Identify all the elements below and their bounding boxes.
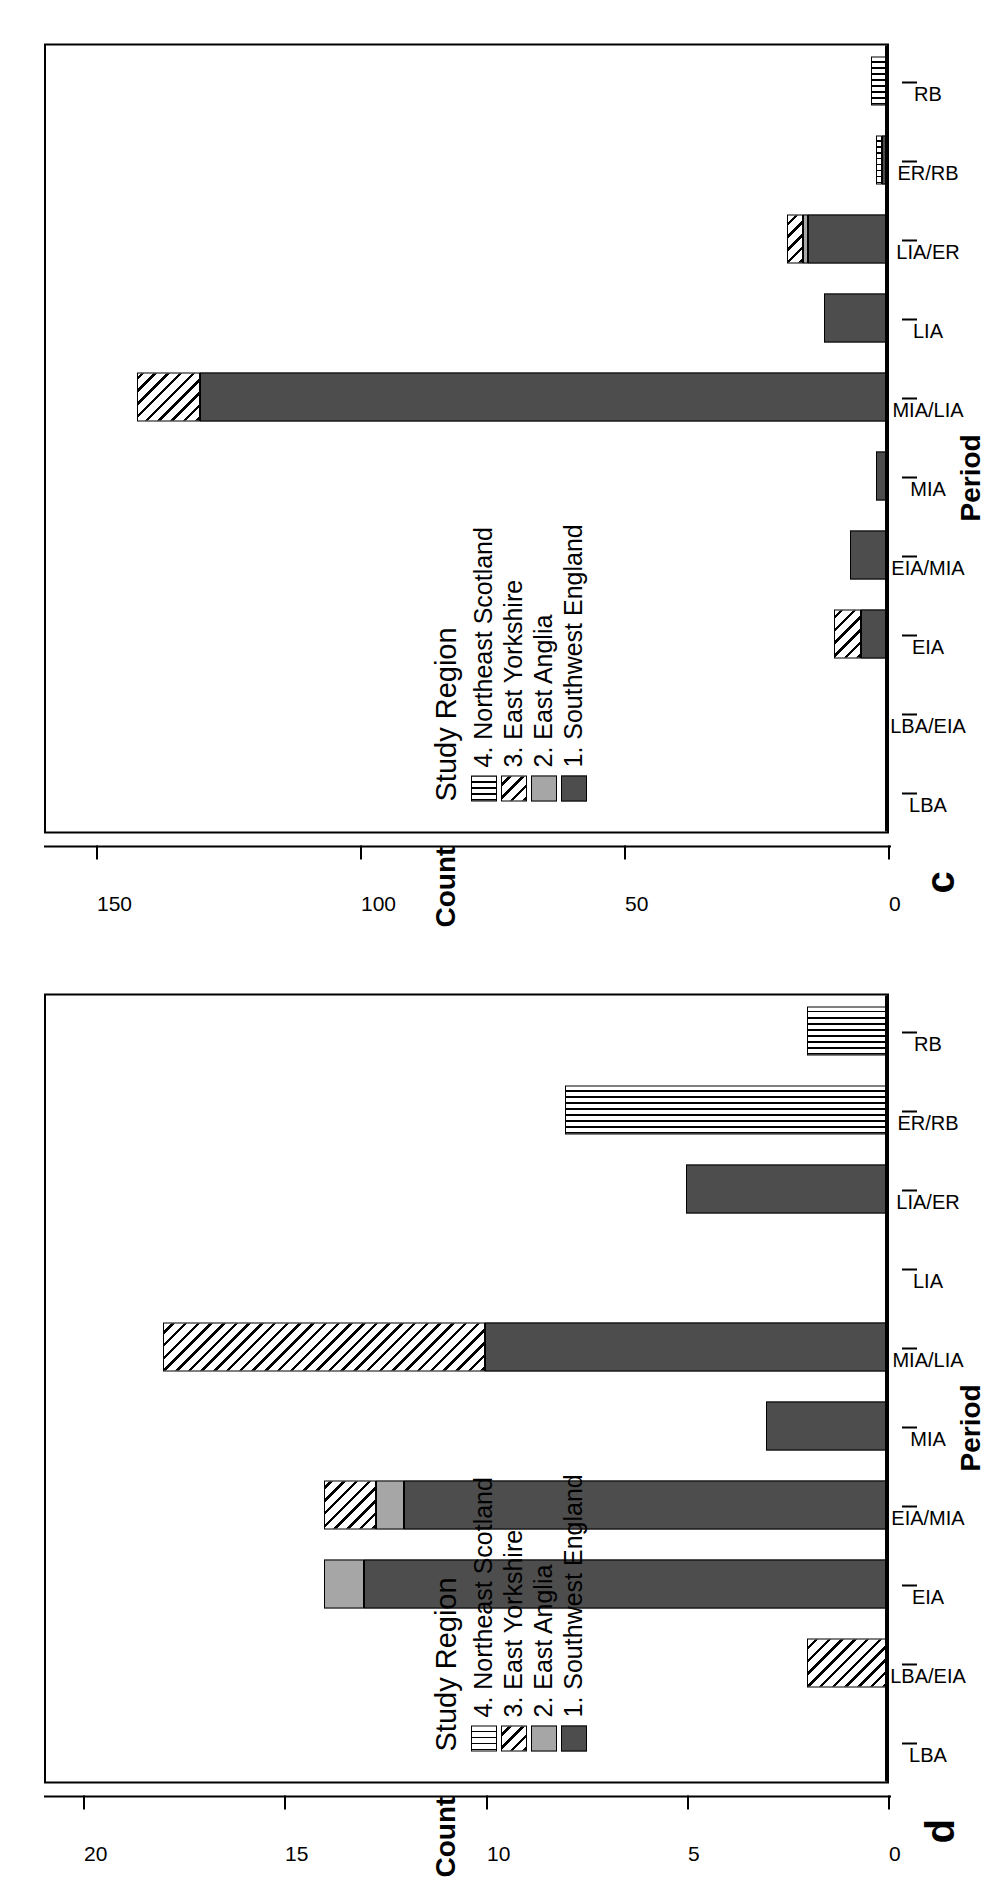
legend-row: 3. East Yorkshire [499, 524, 528, 801]
bar-segment [787, 214, 803, 263]
legend-c: Study Region 4. Northeast Scotland3. Eas… [430, 524, 589, 801]
legend-swatch-icon [531, 1725, 557, 1751]
y-axis-line-c [44, 845, 891, 847]
legend-label: 4. Northeast Scotland [469, 527, 498, 767]
y-tick [83, 1795, 85, 1809]
bar-segment [807, 1006, 887, 1055]
bar-segment [834, 609, 860, 658]
y-axis-title-c: Count [430, 846, 462, 927]
legend-label: 2. East Anglia [529, 1564, 558, 1717]
bar-segment [324, 1480, 376, 1529]
legend-swatch-icon [531, 775, 557, 801]
y-tick [888, 845, 890, 859]
bar-LIA [824, 293, 887, 342]
bar-ER/RB [565, 1085, 887, 1134]
y-axis-line-d [44, 1795, 891, 1797]
x-tick-label: LBA/EIA [890, 1665, 966, 1688]
legend-row: 3. East Yorkshire [499, 1474, 528, 1751]
bar-segment [324, 1559, 364, 1608]
legend-d: Study Region 4. Northeast Scotland3. Eas… [430, 1474, 589, 1751]
legend-label: 3. East Yorkshire [499, 1529, 528, 1717]
y-tick [624, 845, 626, 859]
bar-LIA/ER [787, 214, 887, 263]
bar-segment [163, 1322, 485, 1371]
x-tick-label: LIA/ER [896, 241, 959, 264]
legend-rows-d: 4. Northeast Scotland3. East Yorkshire2.… [469, 1474, 588, 1751]
legend-label: 1. Southwest England [559, 1474, 588, 1717]
figure-root: d 05101520 Count LBALBA/EIAEIAEIA/MIAMIA… [0, 0, 1006, 1901]
x-axis-title-d: Period [955, 1384, 987, 1471]
legend-label: 1. Southwest England [559, 524, 588, 767]
bar-segment [200, 372, 887, 421]
y-axis-title-d: Count [430, 1796, 462, 1877]
x-tick-label: ER/RB [897, 162, 958, 185]
bar-EIA/MIA [850, 530, 887, 579]
bar-LBA/EIA [807, 1638, 887, 1687]
panel-letter-c: c [920, 871, 960, 893]
baseline-d [885, 995, 887, 1781]
x-tick-label: EIA [912, 636, 944, 659]
panel-d: d 05101520 Count LBALBA/EIAEIAEIA/MIAMIA… [0, 951, 1006, 1901]
legend-row: 4. Northeast Scotland [469, 1474, 498, 1751]
bar-RB [807, 1006, 887, 1055]
legend-swatch-icon [561, 1725, 587, 1751]
x-tick-label: LBA [909, 794, 947, 817]
legend-swatch-icon [471, 1725, 497, 1751]
y-tick [360, 845, 362, 859]
bar-segment [686, 1164, 887, 1213]
bar-segment [824, 293, 887, 342]
x-tick-label: MIA/LIA [892, 399, 963, 422]
bar-EIA [834, 609, 887, 658]
legend-label: 2. East Anglia [529, 614, 558, 767]
x-tick-label: RB [914, 1033, 942, 1056]
x-tick-label: LBA/EIA [890, 715, 966, 738]
legend-label: 3. East Yorkshire [499, 579, 528, 767]
bar-EIA/MIA [324, 1480, 887, 1529]
legend-label: 4. Northeast Scotland [469, 1477, 498, 1717]
x-tick-label: LIA [913, 1270, 943, 1293]
legend-row: 1. Southwest England [559, 524, 588, 801]
bar-segment [766, 1401, 887, 1450]
legend-swatch-icon [501, 775, 527, 801]
bar-MIA [766, 1401, 887, 1450]
y-tick [96, 845, 98, 859]
y-tick [486, 1795, 488, 1809]
bar-LIA/ER [686, 1164, 887, 1213]
legend-row: 4. Northeast Scotland [469, 524, 498, 801]
bar-segment [376, 1480, 404, 1529]
legend-swatch-icon [501, 1725, 527, 1751]
legend-title-d: Study Region [430, 1474, 463, 1751]
x-tick-label: MIA [910, 478, 946, 501]
baseline-c [885, 45, 887, 831]
x-tick-label: EIA [912, 1586, 944, 1609]
bar-segment [861, 609, 887, 658]
bar-MIA/LIA [163, 1322, 887, 1371]
legend-rows-c: 4. Northeast Scotland3. East Yorkshire2.… [469, 524, 588, 801]
bar-segment [808, 214, 887, 263]
bar-MIA/LIA [137, 372, 887, 421]
panel-c: c 050100150 Count LBALBA/EIAEIAEIA/MIAMI… [0, 1, 1006, 951]
x-tick-label: EIA/MIA [891, 557, 964, 580]
legend-row: 1. Southwest England [559, 1474, 588, 1751]
legend-swatch-icon [471, 775, 497, 801]
bar-segment [807, 1638, 887, 1687]
legend-row: 2. East Anglia [529, 524, 558, 801]
bar-segment [565, 1085, 887, 1134]
y-tick [888, 1795, 890, 1809]
x-tick-label: MIA [910, 1428, 946, 1451]
y-tick [284, 1795, 286, 1809]
x-tick-label: MIA/LIA [892, 1349, 963, 1372]
bar-segment [485, 1322, 887, 1371]
y-tick [687, 1795, 689, 1809]
x-tick-label: LIA/ER [896, 1191, 959, 1214]
x-tick-label: ER/RB [897, 1112, 958, 1135]
bar-segment [850, 530, 887, 579]
bar-segment [137, 372, 200, 421]
x-tick-label: EIA/MIA [891, 1507, 964, 1530]
bar-EIA [324, 1559, 887, 1608]
x-tick-label: LBA [909, 1744, 947, 1767]
panel-letter-d: d [920, 1819, 960, 1843]
legend-title-c: Study Region [430, 524, 463, 801]
x-axis-title-c: Period [955, 434, 987, 521]
legend-swatch-icon [561, 775, 587, 801]
